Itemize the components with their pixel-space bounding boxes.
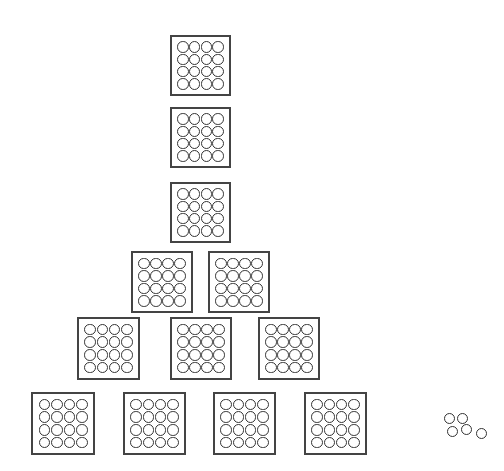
circle-icon: [189, 362, 201, 374]
circle-icon: [201, 126, 213, 138]
circle-icon: [239, 283, 251, 295]
circle-icon: [174, 283, 186, 295]
circle-icon: [257, 399, 269, 411]
circle-icon: [189, 150, 201, 162]
circle-icon: [167, 424, 179, 436]
circle-icon: [233, 399, 245, 411]
circle-icon: [177, 126, 189, 138]
circle-icon: [201, 54, 213, 66]
loose-circle-icon: [461, 424, 472, 435]
circle-icon: [348, 437, 360, 449]
circle-icon: [155, 424, 167, 436]
circle-icon: [174, 258, 186, 270]
circle-icon: [215, 283, 227, 295]
circle-icon: [311, 437, 323, 449]
circle-icon: [201, 324, 213, 336]
circle-icon: [311, 399, 323, 411]
circle-icon: [189, 336, 201, 348]
circle-icon: [51, 424, 63, 436]
circle-icon: [201, 201, 213, 213]
circle-icon: [76, 399, 88, 411]
circle-icon: [336, 424, 348, 436]
circle-icon: [239, 258, 251, 270]
circle-icon: [277, 336, 289, 348]
circle-icon: [150, 283, 162, 295]
circle-icon: [177, 349, 189, 361]
group-box-of-16: [170, 107, 231, 168]
circle-icon: [201, 349, 213, 361]
circle-icon: [215, 258, 227, 270]
circle-icon: [130, 399, 142, 411]
circle-icon: [174, 270, 186, 282]
circle-icon: [213, 336, 225, 348]
circle-icon: [265, 349, 277, 361]
circle-icon: [76, 437, 88, 449]
circle-icon: [227, 283, 239, 295]
group-box-of-16: [170, 182, 231, 243]
circle-icon: [84, 324, 96, 336]
circle-icon: [251, 270, 263, 282]
circle-icon: [189, 78, 201, 90]
group-box-of-16: [131, 251, 193, 313]
circle-icon: [311, 424, 323, 436]
circle-icon: [39, 424, 51, 436]
circle-icon: [257, 437, 269, 449]
circle-icon: [257, 424, 269, 436]
circle-icon: [220, 399, 232, 411]
circle-icon: [215, 270, 227, 282]
circle-icon: [301, 362, 313, 374]
circle-icon: [201, 225, 213, 237]
circle-icon: [97, 362, 109, 374]
circle-icon: [251, 295, 263, 307]
circle-icon: [64, 411, 76, 423]
circle-icon: [189, 41, 201, 53]
circle-icon: [212, 188, 224, 200]
group-box-of-16: [123, 392, 186, 455]
circle-icon: [227, 258, 239, 270]
circle-icon: [138, 258, 150, 270]
group-box-of-16: [208, 251, 270, 313]
circle-icon: [265, 336, 277, 348]
circle-icon: [97, 336, 109, 348]
circle-icon: [189, 138, 201, 150]
circle-icon: [167, 411, 179, 423]
circle-icon: [97, 349, 109, 361]
circle-icon: [162, 258, 174, 270]
group-box-of-16: [258, 317, 320, 380]
circle-icon: [251, 283, 263, 295]
circle-icon: [177, 225, 189, 237]
circle-icon: [227, 270, 239, 282]
circle-icon: [39, 437, 51, 449]
circle-icon: [143, 424, 155, 436]
circle-icon: [212, 201, 224, 213]
circle-icon: [212, 126, 224, 138]
circle-icon: [177, 324, 189, 336]
circle-icon: [277, 362, 289, 374]
circle-icon: [167, 399, 179, 411]
circle-icon: [212, 113, 224, 125]
circle-icon: [155, 399, 167, 411]
group-box-of-16: [77, 317, 140, 380]
loose-circle-icon: [444, 413, 455, 424]
circle-icon: [177, 336, 189, 348]
group-box-of-16: [213, 392, 276, 455]
circle-icon: [39, 411, 51, 423]
circle-icon: [150, 295, 162, 307]
circle-icon: [177, 188, 189, 200]
circle-icon: [177, 78, 189, 90]
circle-icon: [189, 54, 201, 66]
group-box-of-16: [170, 317, 232, 380]
circle-icon: [167, 437, 179, 449]
circle-icon: [301, 336, 313, 348]
circle-icon: [336, 411, 348, 423]
circle-icon: [277, 349, 289, 361]
circle-icon: [336, 399, 348, 411]
circle-icon: [324, 437, 336, 449]
circle-icon: [201, 336, 213, 348]
circle-icon: [301, 349, 313, 361]
circle-icon: [84, 349, 96, 361]
circle-icon: [51, 437, 63, 449]
circle-icon: [109, 349, 121, 361]
circle-icon: [189, 324, 201, 336]
circle-icon: [189, 188, 201, 200]
